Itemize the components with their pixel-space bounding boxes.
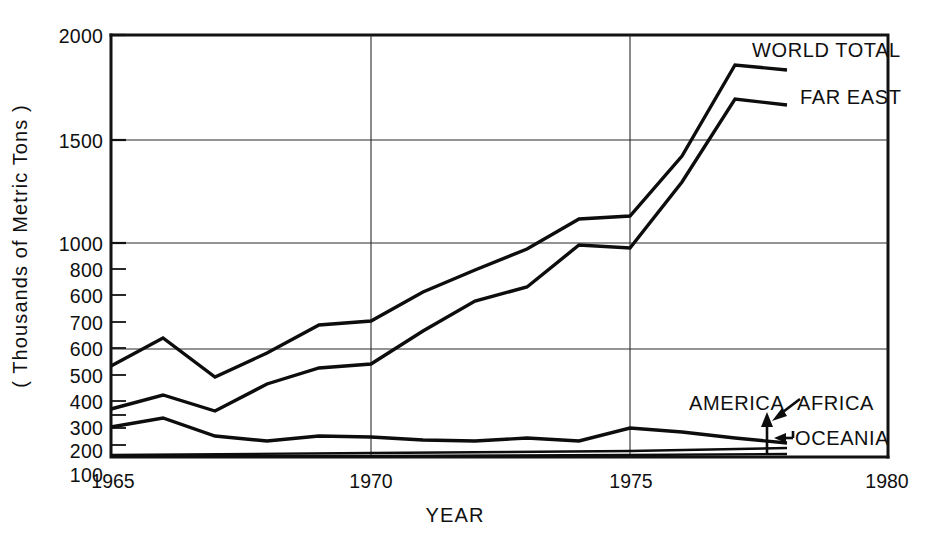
gridlines-horizontal — [111, 140, 888, 349]
xtick-label-1970: 1970 — [349, 470, 393, 492]
series-group — [111, 65, 787, 456]
xtick-label-1965: 1965 — [91, 470, 135, 492]
series-line-far-east — [111, 99, 787, 411]
ytick-label: 1000 — [59, 233, 103, 255]
series-line-america — [111, 418, 787, 443]
series-label-world-total: WORLD TOTAL — [752, 39, 901, 61]
ytick-label: 700 — [70, 312, 103, 334]
chart-figure: 2000 1500 1000 800 600 700 600 500 400 3… — [0, 0, 925, 537]
xtick-label-1975: 1975 — [609, 470, 653, 492]
ytick-label: 500 — [70, 365, 103, 387]
ytick-label: 2000 — [59, 25, 103, 47]
x-tick-labels: 1965 1970 1975 1980 — [91, 470, 909, 492]
chart-canvas: 2000 1500 1000 800 600 700 600 500 400 3… — [0, 0, 925, 537]
ytick-label: 1500 — [59, 130, 103, 152]
ytick-label: 400 — [70, 391, 103, 413]
x-axis-title: YEAR — [426, 504, 485, 526]
series-line-world-total — [111, 65, 787, 377]
series-labels: WORLD TOTAL FAR EAST AMERICA AFRICA OCEA… — [689, 39, 902, 449]
ytick-label: 600 — [70, 338, 103, 360]
america-arrow-icon — [761, 412, 773, 427]
ytick-label: 600 — [70, 285, 103, 307]
series-label-far-east: FAR EAST — [800, 86, 902, 108]
y-axis-title: ( Thousands of Metric Tons ) — [9, 104, 31, 388]
ytick-label: 200 — [70, 440, 103, 462]
y-tick-labels: 2000 1500 1000 800 600 700 600 500 400 3… — [59, 25, 103, 486]
series-label-oceania: OCEANIA — [795, 427, 889, 449]
xtick-label-1980: 1980 — [865, 470, 909, 492]
y-tick-marks — [111, 35, 126, 445]
series-label-america: AMERICA — [689, 392, 784, 414]
ytick-label: 800 — [70, 259, 103, 281]
ytick-label: 300 — [70, 417, 103, 439]
series-label-africa: AFRICA — [797, 392, 874, 414]
